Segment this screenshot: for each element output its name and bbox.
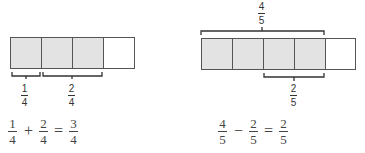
denominator: 5 [250, 133, 257, 146]
denominator: 4 [70, 133, 77, 146]
denominator: 5 [219, 133, 226, 146]
numerator: 2 [291, 83, 297, 94]
denominator: 5 [259, 15, 265, 26]
numerator: 2 [40, 117, 47, 130]
numerator: 1 [9, 117, 16, 130]
denominator: 5 [291, 97, 297, 108]
numerator: 2 [280, 117, 287, 130]
numerator: 4 [219, 117, 226, 130]
eq-right-c: 2 5 [279, 117, 288, 146]
denominator: 4 [22, 97, 28, 108]
left-brace-label-1-4: 1 4 [21, 83, 28, 108]
eq-left-b: 2 4 [39, 117, 48, 146]
right-cell-5-empty [325, 38, 356, 70]
numerator: 4 [259, 1, 265, 12]
eq-left-c: 3 4 [69, 117, 78, 146]
right-bottom-label-2-5: 2 5 [290, 83, 297, 108]
numerator: 3 [70, 117, 77, 130]
eq-left-a: 1 4 [8, 117, 17, 146]
right-cell-2-shaded [232, 38, 264, 70]
eq-right-b: 2 5 [249, 117, 258, 146]
denominator: 4 [69, 97, 75, 108]
eq-right-a: 4 5 [218, 117, 227, 146]
minus-sign: − [234, 122, 243, 140]
denominator: 4 [9, 133, 16, 146]
right-cell-1-shaded [201, 38, 233, 70]
numerator: 2 [69, 83, 75, 94]
right-cell-3-crossed [263, 38, 295, 70]
denominator: 4 [40, 133, 47, 146]
right-cell-4-crossed [294, 38, 326, 70]
left-brace-label-2-4: 2 4 [68, 83, 75, 108]
numerator: 2 [250, 117, 257, 130]
equals-sign: = [264, 122, 273, 140]
equals-sign: = [54, 122, 63, 140]
denominator: 5 [280, 133, 287, 146]
right-top-label-4-5: 4 5 [258, 1, 265, 26]
plus-sign: + [24, 122, 33, 140]
numerator: 1 [22, 83, 28, 94]
